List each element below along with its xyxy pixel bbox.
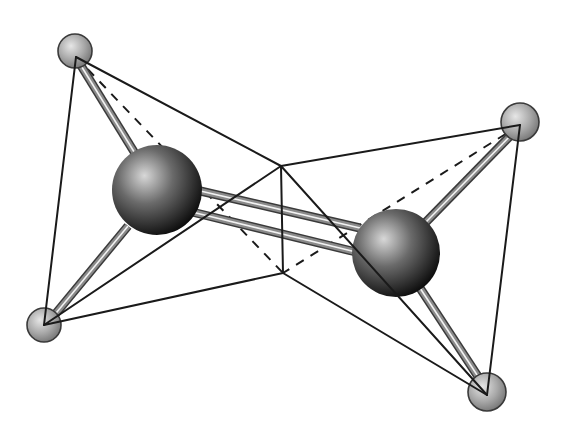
edge-tl-bl xyxy=(44,57,76,325)
bond-highlight xyxy=(426,134,512,222)
bond-highlight xyxy=(52,226,128,318)
large-atom-left xyxy=(112,145,202,235)
bond-right-top-right xyxy=(426,134,512,222)
bond-highlight xyxy=(420,288,481,381)
small-atom-top-right xyxy=(501,103,539,141)
large-atom-right xyxy=(352,209,440,297)
edge-tr-br xyxy=(487,125,520,395)
edge-ct-cb xyxy=(281,166,283,273)
solid-edges-front-layer xyxy=(44,57,520,395)
bond-right-bottom-right xyxy=(420,288,481,381)
molecule-canvas xyxy=(0,0,566,436)
bond-left-bottom-left xyxy=(52,226,128,318)
edge-ct-br xyxy=(281,166,487,395)
molecule-diagram xyxy=(0,0,566,436)
